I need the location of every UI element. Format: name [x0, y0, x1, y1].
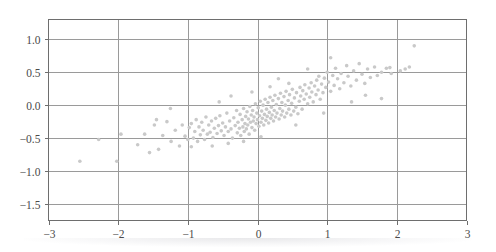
data-point	[380, 97, 384, 101]
data-point	[306, 67, 310, 71]
data-point	[204, 115, 208, 119]
data-point	[296, 112, 300, 116]
data-point	[408, 65, 412, 69]
data-point	[143, 132, 147, 136]
data-point	[213, 126, 217, 130]
data-point	[233, 124, 237, 128]
data-point	[240, 118, 244, 122]
ytick-label-3: −0.5	[20, 133, 41, 145]
data-point	[229, 127, 233, 131]
data-point	[210, 119, 214, 123]
data-point	[292, 109, 296, 113]
data-point	[363, 82, 367, 86]
data-point	[190, 122, 194, 126]
data-point	[336, 77, 340, 81]
data-point	[281, 109, 285, 113]
data-point	[287, 82, 291, 86]
data-point	[236, 121, 240, 125]
data-point	[327, 80, 331, 84]
data-point	[221, 121, 225, 125]
data-point	[369, 76, 373, 80]
data-point	[288, 93, 292, 97]
data-point	[218, 114, 222, 118]
data-point	[388, 66, 392, 70]
data-point	[334, 66, 338, 70]
data-point	[242, 107, 246, 111]
data-point	[285, 111, 289, 115]
data-point	[208, 130, 212, 134]
data-point	[277, 117, 281, 121]
data-point	[136, 143, 140, 147]
data-point	[148, 151, 152, 155]
data-point	[261, 117, 265, 121]
data-point	[97, 138, 101, 142]
data-point	[261, 103, 265, 107]
data-point	[284, 90, 288, 94]
data-point	[78, 159, 82, 163]
data-point	[201, 128, 205, 132]
data-point	[295, 91, 299, 95]
data-point	[255, 111, 259, 115]
data-point	[287, 107, 291, 111]
ytick-label-0: 1.0	[26, 34, 41, 46]
data-point	[157, 148, 161, 152]
data-point	[199, 133, 203, 137]
data-point	[282, 95, 286, 99]
data-point	[314, 93, 318, 97]
data-point	[241, 125, 245, 129]
data-point	[264, 119, 268, 123]
data-point	[308, 95, 312, 99]
ytick-label-5: −1.5	[20, 199, 41, 211]
data-point	[272, 109, 276, 113]
plot-canvas: 1.00.50.0−0.5−1.0−1.5−3−2−10123	[0, 0, 496, 252]
data-point	[239, 134, 243, 138]
data-point	[322, 111, 326, 115]
data-point	[303, 83, 307, 87]
data-point	[317, 74, 321, 78]
data-point	[280, 101, 284, 105]
data-point	[183, 134, 187, 138]
data-point	[269, 117, 273, 121]
data-point	[268, 85, 272, 89]
data-point	[399, 69, 403, 73]
data-point	[271, 99, 275, 103]
data-point	[331, 74, 335, 78]
data-point	[165, 120, 169, 124]
xtick-label-4: 1	[325, 228, 331, 240]
xtick-label-3: 0	[256, 228, 262, 240]
data-point	[345, 64, 349, 68]
data-point	[268, 95, 272, 99]
data-point	[217, 124, 221, 128]
data-point	[294, 123, 298, 127]
data-point	[258, 114, 262, 118]
data-point	[248, 105, 252, 109]
data-point	[180, 123, 184, 127]
data-point	[332, 84, 336, 88]
data-point	[286, 99, 290, 103]
data-point	[389, 72, 393, 76]
data-point	[301, 89, 305, 93]
data-point	[222, 134, 226, 138]
data-point	[260, 109, 264, 113]
data-points	[78, 44, 416, 163]
data-point	[169, 140, 173, 144]
data-point	[155, 118, 159, 122]
data-point	[244, 115, 248, 119]
data-point	[316, 88, 320, 92]
data-point	[311, 100, 315, 104]
data-point	[200, 121, 204, 125]
data-point	[215, 132, 219, 136]
data-point	[290, 101, 294, 105]
xtick-label-0: −3	[43, 228, 55, 240]
data-point	[256, 118, 260, 122]
data-point	[251, 109, 255, 113]
data-point	[247, 117, 251, 121]
data-point	[315, 78, 319, 82]
data-point	[273, 93, 277, 97]
data-point	[329, 90, 333, 94]
data-point	[349, 84, 353, 88]
data-point	[338, 87, 342, 91]
data-point	[256, 106, 260, 110]
data-point	[254, 122, 258, 126]
data-point	[242, 140, 246, 144]
